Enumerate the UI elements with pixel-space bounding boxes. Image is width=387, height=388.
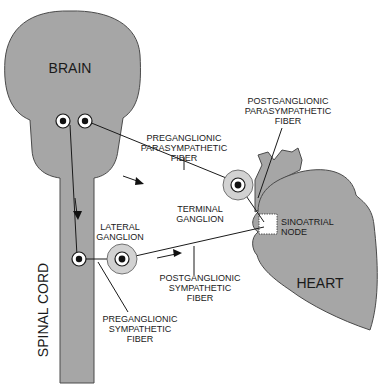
svg-text:PREGANGLIONIC: PREGANGLIONIC [102,314,178,324]
postganglionic-parasympathetic-label: POSTGANGLIONIC PARASYMPATHETIC FIBER [245,96,332,126]
svg-text:SINOATRIAL: SINOATRIAL [281,217,334,227]
preganglionic-parasympathetic-label: PREGANGLIONIC PARASYMPATHETIC FIBER [141,133,228,163]
svg-text:SYMPATHETIC: SYMPATHETIC [169,283,232,293]
brain-neuron-1 [56,114,70,128]
svg-text:LATERAL: LATERAL [100,222,139,232]
brain-neuron-2 [78,114,92,128]
svg-text:NODE: NODE [281,227,307,237]
autonomic-heart-diagram: BRAIN HEART SPINAL CORD PREGANGLIONIC PA… [0,0,387,388]
svg-text:FIBER: FIBER [187,293,214,303]
svg-text:GANGLION: GANGLION [96,232,144,242]
svg-text:FIBER: FIBER [171,153,198,163]
svg-text:PREGANGLIONIC: PREGANGLIONIC [146,133,222,143]
terminal-ganglion-label: TERMINAL GANGLION [176,204,224,224]
sinoatrial-node-box [259,214,277,234]
svg-text:TERMINAL: TERMINAL [177,204,223,214]
heart-shape [253,170,378,330]
spinal-cord-label: SPINAL CORD [35,263,51,357]
svg-text:FIBER: FIBER [127,334,154,344]
preganglionic-sympathetic-label: PREGANGLIONIC SYMPATHETIC FIBER [102,314,178,344]
svg-text:PARASYMPATHETIC: PARASYMPATHETIC [245,106,332,116]
terminal-ganglion [223,170,253,200]
svg-text:POSTGANGLIONIC: POSTGANGLIONIC [247,96,329,106]
postganglionic-sympathetic-label: POSTGANGLIONIC SYMPATHETIC FIBER [159,273,241,303]
svg-text:FIBER: FIBER [275,116,302,126]
heart-label: HEART [296,275,344,291]
svg-text:GANGLION: GANGLION [176,214,224,224]
svg-text:SYMPATHETIC: SYMPATHETIC [109,324,172,334]
lateral-ganglion [107,244,137,274]
svg-text:POSTGANGLIONIC: POSTGANGLIONIC [159,273,241,283]
arrow-icon [123,176,144,185]
svg-text:PARASYMPATHETIC: PARASYMPATHETIC [141,143,228,153]
spinal-neuron [72,252,86,266]
heart [253,148,378,330]
brain-label: BRAIN [49,60,92,76]
lateral-ganglion-label: LATERAL GANGLION [96,222,144,242]
